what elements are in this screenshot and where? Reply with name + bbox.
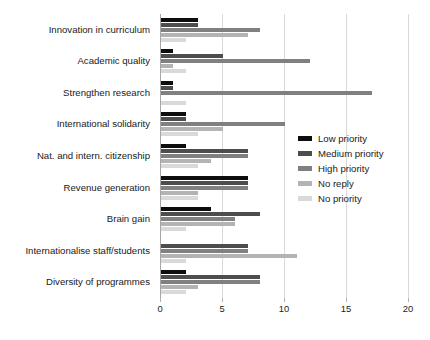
bar-chart: Innovation in curriculumAcademic quality… [0, 0, 430, 340]
category-axis-labels: Innovation in curriculumAcademic quality… [0, 14, 156, 298]
legend-swatch-icon [298, 196, 312, 201]
bar [161, 23, 198, 27]
category-label: Diversity of programmes [0, 276, 150, 287]
legend-item: Medium priority [298, 146, 424, 161]
bar [161, 191, 198, 195]
bar [161, 127, 223, 131]
bar [161, 244, 248, 248]
bar [161, 18, 198, 22]
bar [161, 117, 186, 121]
bar [161, 59, 310, 63]
bar [161, 159, 211, 163]
bar [161, 122, 285, 126]
x-tick-label: 5 [219, 303, 224, 314]
legend-label: High priority [318, 163, 369, 174]
bar [161, 28, 260, 32]
bar [161, 217, 235, 221]
bar [161, 254, 297, 258]
bar [161, 33, 248, 37]
legend-item: High priority [298, 161, 424, 176]
bar-group [161, 239, 408, 263]
x-tick [160, 298, 161, 302]
legend-label: Low priority [318, 133, 367, 144]
legend-item: No reply [298, 176, 424, 191]
chart-legend: Low priorityMedium priorityHigh priority… [298, 131, 424, 206]
category-label: Revenue generation [0, 182, 150, 193]
bar [161, 280, 260, 284]
x-tick-label: 0 [157, 303, 162, 314]
bar [161, 144, 186, 148]
bar-group [161, 81, 408, 105]
bar [161, 54, 223, 58]
bar-group [161, 270, 408, 294]
x-axis: 05101520 [160, 298, 408, 322]
legend-swatch-icon [298, 181, 312, 186]
legend-item: No priority [298, 191, 424, 206]
x-tick [222, 298, 223, 302]
legend-label: No priority [318, 193, 362, 204]
bar [161, 176, 248, 180]
bar [161, 81, 173, 85]
category-label: International solidarity [0, 118, 150, 129]
category-label: Internationalise staff/students [0, 245, 150, 256]
bar [161, 285, 198, 289]
legend-label: No reply [318, 178, 354, 189]
x-tick [408, 298, 409, 302]
bar [161, 112, 186, 116]
bar [161, 207, 211, 211]
bar [161, 186, 248, 190]
bar [161, 249, 248, 253]
bar [161, 164, 198, 168]
category-label: Strengthen research [0, 87, 150, 98]
category-label: Innovation in curriculum [0, 24, 150, 35]
x-tick-label: 15 [341, 303, 351, 314]
bar [161, 149, 248, 153]
bar [161, 49, 173, 53]
bar [161, 154, 248, 158]
bar [161, 270, 186, 274]
legend-item: Low priority [298, 131, 424, 146]
bar [161, 86, 173, 90]
bar [161, 38, 186, 42]
category-label: Brain gain [0, 213, 150, 224]
bar [161, 101, 186, 105]
bar [161, 64, 173, 68]
bar [161, 196, 198, 200]
bar [161, 227, 186, 231]
legend-swatch-icon [298, 151, 312, 156]
bar [161, 181, 248, 185]
bar [161, 132, 198, 136]
bar-group [161, 49, 408, 73]
legend-swatch-icon [298, 166, 312, 171]
bar [161, 290, 186, 294]
bar-group [161, 18, 408, 42]
x-tick [284, 298, 285, 302]
bar [161, 259, 186, 263]
x-tick [346, 298, 347, 302]
x-tick-label: 10 [279, 303, 289, 314]
bar [161, 212, 260, 216]
x-tick-label: 20 [403, 303, 413, 314]
bar [161, 222, 235, 226]
category-label: Nat. and intern. citizenship [0, 150, 150, 161]
legend-swatch-icon [298, 136, 312, 141]
bar [161, 275, 260, 279]
bar [161, 91, 372, 95]
legend-label: Medium priority [318, 148, 384, 159]
bar [161, 69, 186, 73]
bar-group [161, 207, 408, 231]
category-label: Academic quality [0, 55, 150, 66]
